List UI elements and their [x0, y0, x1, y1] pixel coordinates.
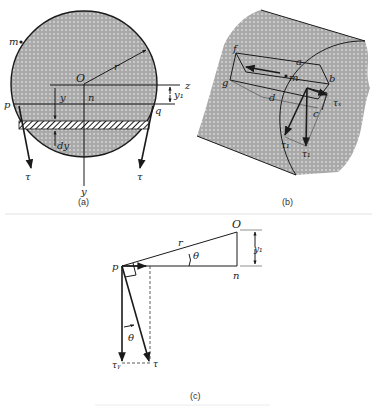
label-dy: dy: [57, 140, 69, 151]
label-y-axis: y: [80, 186, 87, 197]
label-y1: y₁: [173, 89, 184, 100]
label-theta-bottom: θ: [128, 332, 134, 343]
label-theta-top: θ: [193, 250, 199, 261]
panel-b: f a g m b d c τₓ τ₁ τ₁ (b): [197, 10, 370, 207]
label-y1-c: y₁: [253, 244, 263, 254]
tau-resultant-arrow: [306, 88, 307, 146]
label-y: y: [59, 92, 66, 103]
label-tau-1: τ₁: [281, 140, 290, 150]
label-z: z: [184, 80, 191, 91]
theta-arc-bottom: [124, 325, 134, 327]
label-p-c: p: [112, 261, 119, 272]
label-tau-right: τ: [137, 171, 143, 182]
label-q: q: [155, 105, 161, 116]
label-tau-resultant: τ₁: [302, 149, 311, 159]
point-m-b: [284, 74, 287, 77]
point-m: [19, 40, 22, 43]
label-O-c: O: [232, 218, 241, 231]
label-tau-c: τ: [153, 359, 159, 369]
label-a: a: [296, 56, 302, 67]
label-c: c: [313, 108, 319, 119]
panel-c: O r θ y₁ p n θ τᵧ τ (c): [112, 218, 263, 401]
label-p: p: [4, 99, 11, 110]
label-O: O: [76, 72, 85, 85]
panel-a: m O r z y₁ p q n y dy τ τ y (a): [4, 11, 191, 207]
tau-arrow: [122, 266, 149, 361]
label-n-c: n: [233, 270, 239, 281]
label-d: d: [269, 92, 275, 103]
label-tau-y: τᵧ: [112, 360, 121, 370]
caption-c: (c): [190, 391, 201, 401]
label-m-b: m: [289, 72, 298, 83]
label-tau-x: τₓ: [333, 98, 342, 108]
label-n: n: [88, 92, 94, 103]
label-m: m: [9, 36, 18, 47]
theta-arc-top: [189, 254, 191, 266]
diagram-canvas: m O r z y₁ p q n y dy τ τ y (a): [0, 0, 377, 411]
label-r-c: r: [178, 237, 184, 248]
label-b: b: [329, 73, 335, 84]
label-g: g: [222, 77, 228, 88]
caption-a: (a): [78, 197, 89, 207]
caption-b: (b): [282, 197, 293, 207]
label-tau-left: τ: [25, 171, 31, 182]
